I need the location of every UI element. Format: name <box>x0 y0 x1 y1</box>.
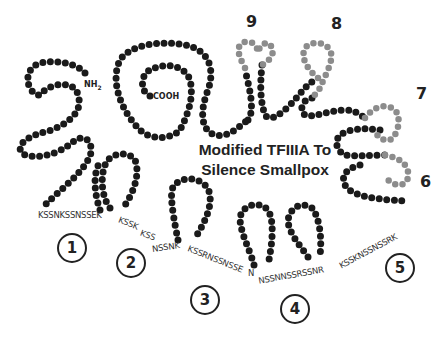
central-spiral-chain <box>116 43 248 137</box>
finger-number-9: 9 <box>246 12 257 31</box>
finger-9-tip <box>239 42 273 68</box>
finger-8-base <box>302 98 365 118</box>
finger-7-tip <box>365 106 399 140</box>
n-terminus-label: NH2 <box>84 80 102 91</box>
linker-label-4: 4 <box>280 294 310 324</box>
diagram-title: Modified TFIIIA To Silence Smallpox <box>150 140 380 180</box>
linker-sequence-1: KSSNKSSNSSEK <box>38 210 102 220</box>
finger-number-6: 6 <box>420 172 431 191</box>
finger-5-loop <box>288 205 321 257</box>
finger-3-loop <box>172 179 211 240</box>
linker-label-5: 5 <box>385 253 415 283</box>
finger-number-7: 7 <box>416 84 427 103</box>
finger-4-loop <box>240 205 272 265</box>
finger-9-stalk <box>245 65 318 120</box>
finger-2-loop <box>102 154 137 208</box>
c-terminus-label: COOH <box>153 92 179 101</box>
linker-sequence-3b: N <box>248 268 254 278</box>
linker-label-3: 3 <box>190 285 220 315</box>
title-line-2: Silence Smallpox <box>150 160 380 180</box>
title-line-1: Modified TFIIIA To <box>150 140 380 160</box>
n-terminal-chain <box>20 62 91 205</box>
finger-number-8: 8 <box>331 14 342 33</box>
linker-label-2: 2 <box>116 248 146 278</box>
linker-label-1: 1 <box>57 233 87 263</box>
finger-6-tip <box>385 155 408 185</box>
